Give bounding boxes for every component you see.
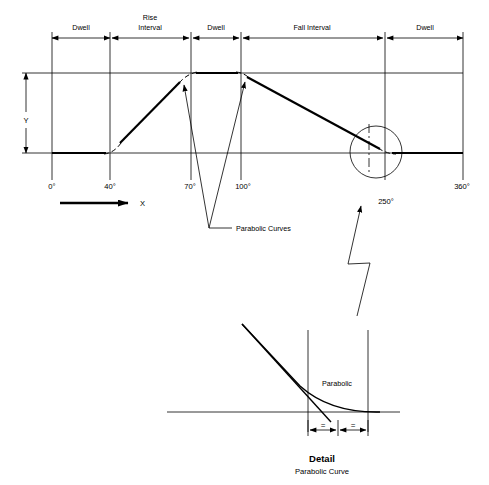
parabolic-curves-leaders: Parabolic Curves bbox=[184, 82, 291, 233]
x-axis-label: X bbox=[140, 199, 145, 208]
detail-parabolic-label: Parabolic bbox=[322, 379, 352, 388]
parabolic-curves-label: Parabolic Curves bbox=[236, 224, 291, 233]
interval-labels: Dwell Rise Interval Dwell Fall Interval … bbox=[72, 13, 434, 32]
detail-equal-dimension: = = bbox=[308, 420, 368, 436]
zigzag-leader-line bbox=[348, 206, 370, 316]
blend-arc-70deg bbox=[179, 72, 197, 83]
curve-fall-straight bbox=[247, 77, 380, 149]
interval-label-dwell-3: Dwell bbox=[416, 23, 434, 32]
detail-subtitle: Parabolic Curve bbox=[295, 467, 349, 476]
tick-label-250deg: 250° bbox=[378, 197, 394, 206]
x-axis-arrow-group: X bbox=[60, 199, 145, 208]
blend-arc-40deg bbox=[104, 143, 121, 154]
detail-inset: Parabolic = = Detail Parabolic Curve bbox=[167, 324, 400, 476]
interval-label-rise-line1: Rise bbox=[143, 13, 157, 22]
tick-label-40deg: 40° bbox=[104, 182, 115, 191]
curve-rise-straight bbox=[120, 82, 180, 143]
interval-label-fall: Fall Interval bbox=[293, 23, 331, 32]
interval-label-dwell-1: Dwell bbox=[72, 23, 90, 32]
reference-lines bbox=[22, 73, 463, 153]
detail-callout-circle bbox=[350, 124, 402, 178]
y-axis-label: Y bbox=[23, 116, 28, 125]
tick-label-70deg: 70° bbox=[184, 182, 195, 191]
detail-zigzag-leader bbox=[348, 206, 370, 316]
interval-label-rise-line2: Interval bbox=[138, 23, 162, 32]
leader-to-100deg-blend bbox=[209, 82, 245, 228]
y-dimension: Y bbox=[23, 73, 28, 153]
displacement-curve bbox=[52, 73, 463, 153]
detail-equal-mark-left: = bbox=[321, 421, 326, 430]
cam-displacement-figure: Dwell Rise Interval Dwell Fall Interval … bbox=[0, 0, 489, 485]
detail-title: Detail bbox=[309, 453, 335, 464]
tick-label-100deg: 100° bbox=[235, 182, 251, 191]
tick-label-0deg: 0° bbox=[48, 182, 55, 191]
detail-parabolic-curve bbox=[242, 324, 380, 412]
leader-to-70deg-blend bbox=[184, 85, 209, 228]
detail-equal-mark-right: = bbox=[351, 421, 356, 430]
diagram-canvas: Dwell Rise Interval Dwell Fall Interval … bbox=[0, 0, 489, 485]
interval-label-dwell-2: Dwell bbox=[207, 23, 225, 32]
tick-label-360deg: 360° bbox=[454, 182, 470, 191]
